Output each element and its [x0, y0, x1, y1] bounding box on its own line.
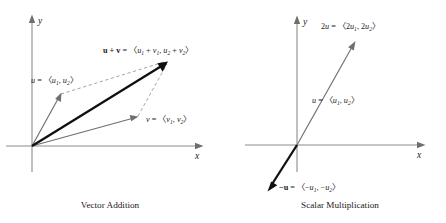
panel-scalar-multiplication: y x 2u = 〈2u1, 2u2〉 u = 〈u1, u2〉 −u = 〈−… [245, 16, 426, 211]
label-vector-u-right: u = 〈u1, u2〉 [312, 96, 359, 106]
label-u-close-left: 〉 [70, 76, 78, 85]
label-sum-close-left: 〉 [185, 46, 193, 55]
label-u-close-right: 〉 [351, 96, 359, 105]
dashed-parallelogram-left [61, 62, 167, 116]
label-sum-plus1-left: + [144, 46, 153, 55]
label-vector-u-left: u = 〈u1, u2〉 [31, 76, 78, 86]
label-negu-close-right: 〉 [332, 183, 340, 192]
caption-scalar-multiplication: Scalar Multiplication [301, 200, 379, 210]
y-axis-label-right: y [302, 17, 308, 27]
label-sum-plus2-left: + [170, 46, 179, 55]
label-u-eq-right: = 〈 [316, 96, 333, 105]
label-vector-negative-u-right: −u = 〈−u1, −u2〉 [279, 183, 340, 193]
label-vector-v-left: v = 〈v1, v2〉 [146, 115, 191, 125]
label-2u-close-right: 〉 [372, 22, 380, 31]
x-axis-right [245, 142, 426, 148]
vector-v-left [32, 115, 139, 146]
label-sum-name-left: u + v [103, 46, 121, 55]
label-negu-name-right: −u [279, 183, 289, 192]
label-2u-eq-right: = 〈 [329, 22, 346, 31]
vector-figure: y x u = 〈u1, u2〉 [0, 0, 446, 223]
panel-vector-addition: y x u = 〈u1, u2〉 [6, 15, 204, 211]
x-axis-label-right: x [416, 150, 422, 160]
label-v-close-left: 〉 [183, 115, 191, 124]
label-negu-eq-right: = 〈 [288, 183, 305, 192]
vector-u-plus-v-left [32, 62, 168, 147]
label-vector-2u-right: 2u = 〈2u1, 2u2〉 [321, 22, 380, 32]
label-sum-eq-left: = 〈 [120, 46, 137, 55]
label-vector-sum-left: u + v = 〈u1 + v1, u2 + v2〉 [103, 46, 193, 56]
x-axis-label-left: x [194, 151, 200, 161]
label-u-eq-left: = 〈 [35, 76, 52, 85]
y-axis-label-left: y [37, 16, 43, 26]
caption-vector-addition: Vector Addition [81, 200, 140, 210]
y-axis-left [29, 15, 35, 173]
label-v-eq-left: = 〈 [150, 115, 167, 124]
vector-2u-right [297, 41, 356, 145]
